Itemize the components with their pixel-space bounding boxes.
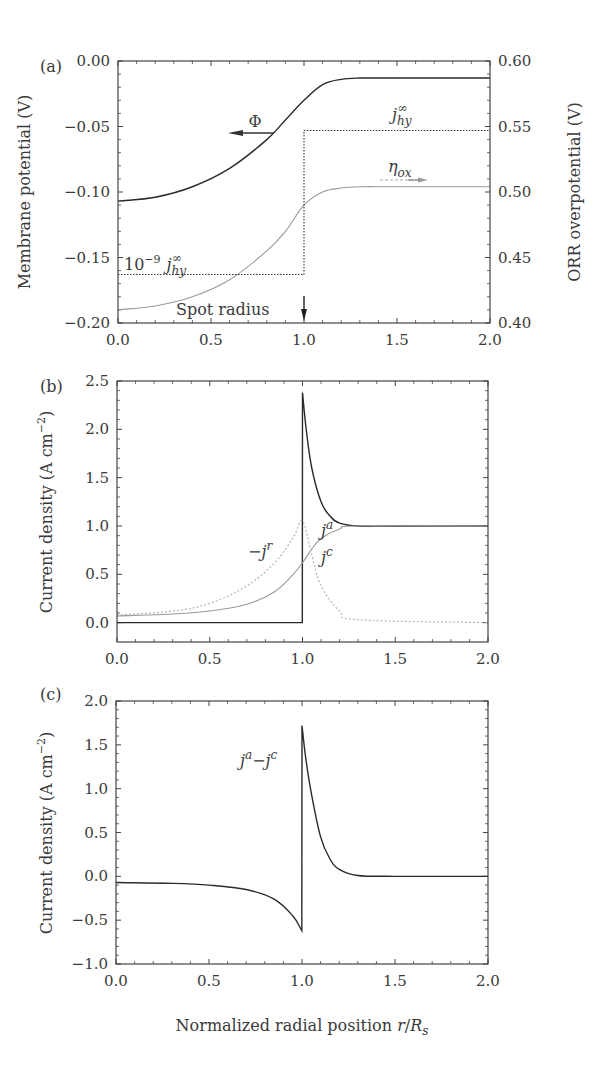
x-tick-label: 2.0 <box>478 331 502 349</box>
x-tick-label: 2.0 <box>476 650 500 668</box>
x-tick-label: 0.0 <box>105 650 129 668</box>
x-tick-label: 0.5 <box>199 331 223 349</box>
jr-label: −jr <box>248 539 273 561</box>
spot-radius-label: Spot radius <box>176 300 269 319</box>
jhy-inf-label: jhy∞ <box>389 101 412 128</box>
panel-a-label: (a) <box>40 57 62 76</box>
series-line <box>116 726 488 931</box>
eta-ox-label: ηox <box>388 157 412 180</box>
x-tick-label: 1.0 <box>292 331 316 349</box>
y-tick-label: −0.20 <box>64 314 110 332</box>
y-tick-label: 1.0 <box>85 517 109 535</box>
jhy-small-label: 10−9jhy∞ <box>124 251 186 278</box>
panel-b-ylabel: Current density (A cm−2) <box>35 411 56 614</box>
x-tick-label: 2.0 <box>476 972 500 990</box>
y-tick-label: 0.00 <box>77 52 110 70</box>
y-tick-label: 0.0 <box>85 614 109 632</box>
y-tick-label: 0.5 <box>85 565 109 583</box>
y-tick-label: −0.15 <box>64 249 110 267</box>
x-tick-label: 1.0 <box>290 972 314 990</box>
y-tick-label: 2.0 <box>85 420 109 438</box>
y-tick-label: 2.5 <box>85 372 109 390</box>
panel-c-label: (c) <box>40 685 61 704</box>
x-tick-label: 1.5 <box>385 331 409 349</box>
panel-b-ticks: 0.00.51.01.52.02.52.01.51.00.50.0 <box>85 372 500 668</box>
ja-label: ja <box>318 518 333 540</box>
y-tick-label: −1.0 <box>72 955 108 973</box>
panel-b-series <box>117 393 488 623</box>
panel-a-ylabel-right: ORR overpotential (V) <box>565 102 584 282</box>
jc-label: jc <box>318 545 333 567</box>
series-line <box>117 393 488 623</box>
y-tick-label: 1.5 <box>85 469 109 487</box>
y-tick-label: 1.5 <box>84 736 108 754</box>
y-tick-label: −0.10 <box>64 183 110 201</box>
y-right-tick-label: 0.55 <box>498 118 531 136</box>
x-tick-label: 0.5 <box>198 650 222 668</box>
x-tick-label: 1.5 <box>383 650 407 668</box>
panel-b-label: (b) <box>40 377 63 396</box>
x-tick-label: 0.0 <box>104 972 128 990</box>
x-tick-label: 1.5 <box>383 972 407 990</box>
panel-c-ylabel: Current density (A cm−2) <box>35 732 56 935</box>
panel-a: (a) 0.00.51.01.52.00.00−0.05−0.10−0.15−0… <box>15 52 584 349</box>
ja-minus-jc-label: ja−jc <box>237 748 278 770</box>
series-line <box>118 78 490 201</box>
panel-c-ticks: 0.00.51.01.52.02.01.51.00.50.0−0.5−1.0 <box>72 692 500 990</box>
phi-label: Φ <box>248 112 261 131</box>
x-axis-label: Normalized radial position r/Rs <box>176 1016 429 1038</box>
y-right-tick-label: 0.60 <box>498 52 531 70</box>
y-tick-label: −0.5 <box>72 911 108 929</box>
y-right-tick-label: 0.50 <box>498 183 531 201</box>
panel-a-ylabel: Membrane potential (V) <box>15 95 34 290</box>
y-tick-label: 0.5 <box>84 824 108 842</box>
x-tick-label: 0.5 <box>197 972 221 990</box>
panel-c-series <box>116 726 488 931</box>
y-tick-label: 0.0 <box>84 867 108 885</box>
x-tick-label: 1.0 <box>291 650 315 668</box>
panel-c: (c) 0.00.51.01.52.02.01.51.00.50.0−0.5−1… <box>35 685 500 1038</box>
y-tick-label: −0.05 <box>64 118 110 136</box>
figure: (a) 0.00.51.01.52.00.00−0.05−0.10−0.15−0… <box>0 0 603 1067</box>
y-right-tick-label: 0.45 <box>498 249 531 267</box>
y-right-tick-label: 0.40 <box>498 314 531 332</box>
y-tick-label: 1.0 <box>84 780 108 798</box>
y-tick-label: 2.0 <box>84 692 108 710</box>
x-tick-label: 0.0 <box>106 331 130 349</box>
spot-radius-arrow-icon <box>301 296 307 321</box>
panel-b: (b) 0.00.51.01.52.02.52.01.51.00.50.0 Cu… <box>35 372 500 668</box>
